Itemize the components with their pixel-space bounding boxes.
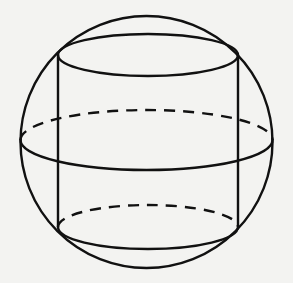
cylinder-bottom-back-arc	[58, 205, 238, 227]
diagram-canvas: Cylinder inscribed in a sphere	[0, 0, 293, 283]
sphere-cylinder-figure	[0, 0, 293, 283]
cylinder-bottom-front-arc	[58, 227, 238, 249]
cylinder-top-ellipse	[58, 34, 238, 76]
